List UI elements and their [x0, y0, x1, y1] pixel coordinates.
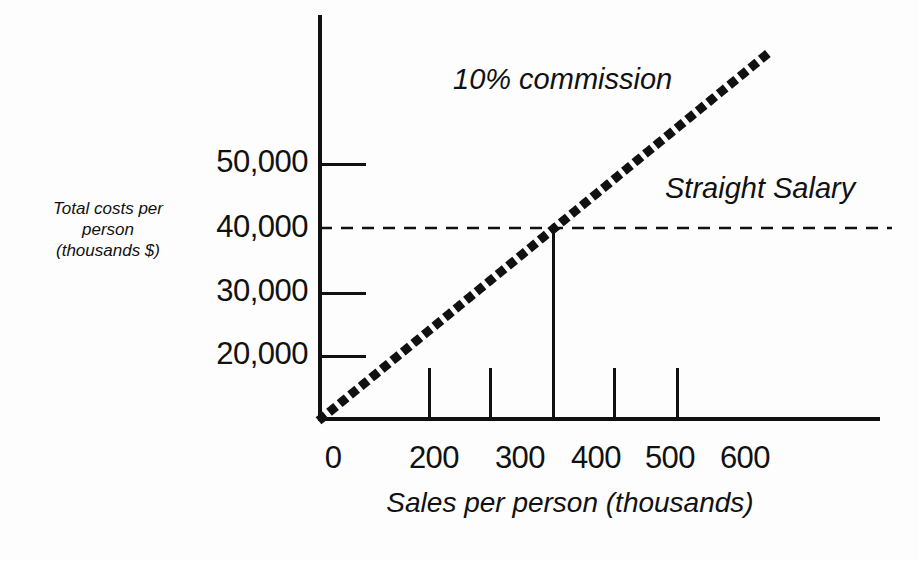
x-tick-200 — [428, 368, 431, 419]
x-tick-label-300: 300 — [495, 440, 545, 476]
x-axis-line — [318, 417, 880, 421]
x-tick-label-0: 0 — [325, 440, 342, 476]
y-axis-title-line-3: (thousands $) — [56, 241, 160, 260]
y-axis-line — [318, 15, 322, 421]
x-axis-title: Sales per person (thousands) — [386, 487, 753, 519]
y-axis-title-line-1: Total costs per — [53, 199, 163, 218]
y-tick-label-40000: 40,000 — [216, 209, 308, 245]
x-tick-label-600: 600 — [720, 440, 770, 476]
x-tick-label-400: 400 — [571, 440, 621, 476]
annotation-commission: 10% commission — [453, 63, 672, 96]
chart-canvas: 50,000 40,000 30,000 20,000 0 200 300 40… — [0, 0, 918, 561]
x-tick-label-200: 200 — [409, 440, 459, 476]
commission-series-line — [322, 51, 771, 418]
y-axis-title: Total costs per person (thousands $) — [12, 198, 204, 261]
y-axis-title-line-2: person — [82, 220, 134, 239]
annotation-straight-salary: Straight Salary — [665, 172, 855, 205]
x-tick-400 — [613, 368, 616, 419]
y-tick-label-30000: 30,000 — [216, 273, 308, 309]
y-tick-50000 — [322, 163, 366, 166]
y-tick-label-20000: 20,000 — [216, 336, 308, 372]
y-tick-label-50000: 50,000 — [216, 144, 308, 180]
x-tick-500 — [676, 368, 679, 419]
x-tick-label-500: 500 — [645, 440, 695, 476]
y-tick-30000 — [322, 292, 366, 295]
y-tick-20000 — [322, 355, 366, 358]
x-tick-300 — [489, 368, 492, 419]
indifference-point-drop-line — [552, 228, 555, 419]
